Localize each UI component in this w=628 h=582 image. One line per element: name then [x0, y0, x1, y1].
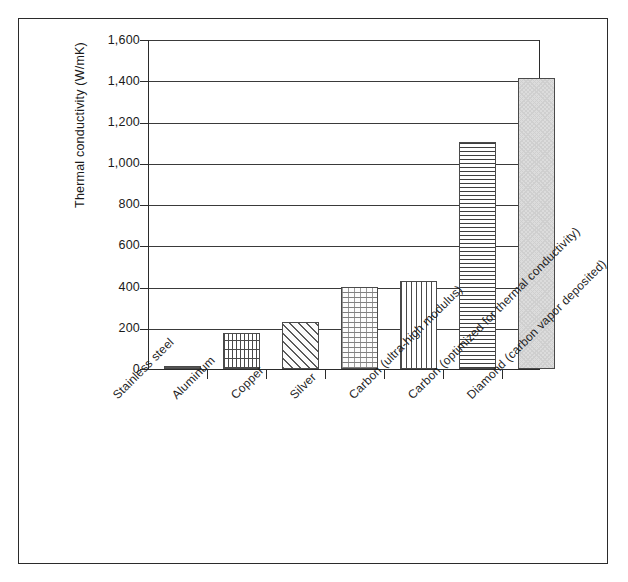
gridline-1400	[149, 81, 539, 82]
y-tick-label-800: 800	[119, 197, 140, 211]
y-tick-label-600: 600	[119, 238, 140, 252]
gridline-1600	[149, 40, 539, 41]
y-tick-800	[140, 205, 149, 206]
y-axis-title: Thermal conductivity (W/mK)	[73, 15, 87, 235]
bar-chart: Thermal conductivity (W/mK) 1,600 1,400 …	[0, 0, 628, 582]
x-label-silver: Silver	[287, 370, 319, 402]
y-tick-label-1200: 1,200	[108, 115, 140, 129]
y-tick-1000	[140, 164, 149, 165]
y-tick-label-1400: 1,400	[108, 74, 140, 88]
y-tick-label-400: 400	[119, 280, 140, 294]
y-tick-label-200: 200	[119, 321, 140, 335]
y-tick-1600	[140, 40, 149, 41]
y-tick-200	[140, 329, 149, 330]
y-tick-label-1000: 1,000	[108, 156, 140, 170]
bar-silver[interactable]	[341, 287, 378, 370]
y-tick-1400	[140, 81, 149, 82]
x-tick-2	[266, 370, 267, 379]
y-axis-tick-labels: 1,600 1,400 1,200 1,000 800 600 400 200 …	[88, 40, 140, 370]
bar-copper[interactable]	[282, 322, 319, 369]
x-tick-3	[325, 370, 326, 379]
y-tick-400	[140, 288, 149, 289]
y-tick-1200	[140, 123, 149, 124]
gridline-1200	[149, 123, 539, 124]
y-tick-600	[140, 246, 149, 247]
y-tick-label-1600: 1,600	[108, 33, 140, 47]
